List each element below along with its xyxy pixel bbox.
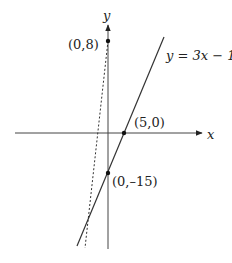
point-0-8-dot (106, 39, 110, 43)
coordinate-graph: x y y = 3x − 15 (0,8) (5,0) (0,–15) (0, 0, 232, 263)
point-5-0-label: (5,0) (134, 115, 165, 130)
point-5-0-dot (122, 131, 126, 135)
point-0-8-label: (0,8) (68, 37, 99, 52)
equation-label: y = 3x − 15 (165, 48, 232, 63)
x-axis-label: x (207, 127, 215, 142)
y-axis-label: y (102, 8, 111, 23)
solid-line (77, 37, 164, 246)
point-0-neg15-label: (0,–15) (112, 174, 158, 189)
point-0-neg15-dot (106, 171, 110, 175)
